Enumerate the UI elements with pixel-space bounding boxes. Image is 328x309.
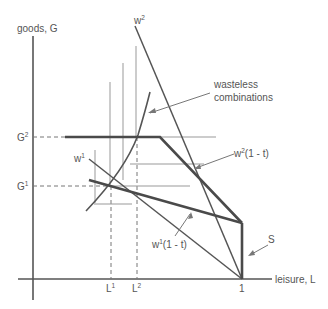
x-axis-label: leisure, L [275, 274, 316, 285]
s-label: S [268, 234, 275, 245]
tax-leisure-diagram: goods, G leisure, L G2 G1 L1 L2 1 w2 w1 … [0, 0, 328, 309]
w1-label: w1 [73, 152, 85, 164]
s-arrowhead [248, 250, 255, 256]
l1-tick-label: L1 [106, 282, 116, 294]
l2-tick-label: L2 [132, 282, 142, 294]
w2-1-t-label: w2(1 - t) [233, 147, 269, 159]
wasteless-label-line2: combinations [214, 92, 273, 103]
w2-1-t-pointer [196, 154, 234, 168]
g1-tick-label: G1 [17, 180, 29, 192]
y-axis-label: goods, G [17, 23, 58, 34]
wasteless-label-line1: wasteless [213, 79, 258, 90]
one-tick-label: 1 [239, 283, 245, 294]
wasteless-arrowhead [148, 108, 156, 113]
w1-line [89, 159, 242, 279]
w2-label: w2 [133, 14, 145, 26]
w1-1-t-label: w1(1 - t) [151, 238, 187, 250]
wasteless-pointer [150, 93, 210, 113]
g2-tick-label: G2 [17, 131, 29, 143]
